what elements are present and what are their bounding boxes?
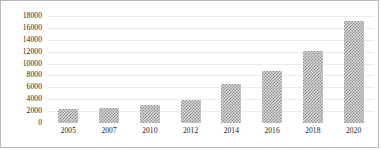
bar bbox=[181, 100, 201, 123]
bar bbox=[58, 109, 78, 123]
y-axis-tick-label: 14000 bbox=[0, 36, 42, 44]
y-axis-tick-label: 8000 bbox=[0, 71, 42, 79]
bar bbox=[99, 108, 119, 123]
y-axis-tick-label: 0 bbox=[0, 119, 42, 127]
bar-series bbox=[48, 16, 374, 123]
y-axis-tick-label: 4000 bbox=[0, 95, 42, 103]
chart-figure: 0200040006000800010000120001400016000180… bbox=[0, 0, 379, 148]
bar bbox=[262, 71, 282, 123]
y-axis-tick-label: 12000 bbox=[0, 48, 42, 56]
y-axis-tick-label: 2000 bbox=[0, 107, 42, 115]
bar bbox=[140, 105, 160, 123]
x-axis-tick-label: 2020 bbox=[330, 127, 378, 135]
bar bbox=[221, 84, 241, 123]
y-axis-tick-label: 16000 bbox=[0, 24, 42, 32]
bar bbox=[344, 21, 364, 123]
y-axis-tick-label: 10000 bbox=[0, 60, 42, 68]
bar bbox=[303, 51, 323, 123]
y-axis-tick-label: 18000 bbox=[0, 12, 42, 20]
y-axis-tick-label: 6000 bbox=[0, 83, 42, 91]
